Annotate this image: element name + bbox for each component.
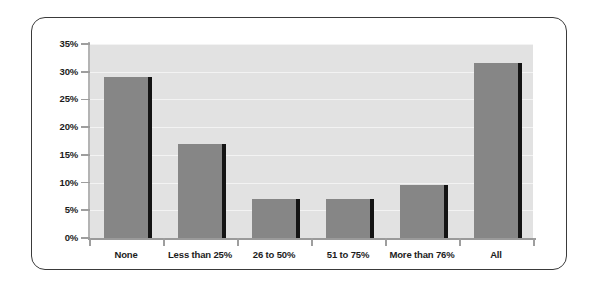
- gridline: [89, 99, 533, 100]
- gridline: [89, 44, 533, 45]
- gridline: [89, 72, 533, 73]
- bar: [104, 77, 148, 238]
- bar: [178, 144, 222, 238]
- y-axis-tick: [81, 182, 90, 184]
- y-axis-tick-label: 15%: [40, 150, 78, 160]
- x-axis-category-label: All: [451, 249, 541, 260]
- y-axis-tick-label: 10%: [40, 178, 78, 188]
- gridline: [89, 155, 533, 156]
- bar: [252, 199, 296, 238]
- bar: [474, 63, 518, 238]
- gridline: [89, 183, 533, 184]
- y-axis-tick-label: 20%: [40, 122, 78, 132]
- x-axis-tick: [163, 238, 165, 246]
- x-axis-tick: [89, 238, 91, 246]
- plot-area: [89, 44, 533, 238]
- chart-container: 0%5%10%15%20%25%30%35% NoneLess than 25%…: [0, 0, 598, 289]
- bar: [326, 199, 370, 238]
- y-axis-tick-label: 30%: [40, 67, 78, 77]
- gridline: [89, 210, 533, 211]
- bar-shadow-edge: [296, 199, 300, 238]
- bar: [400, 185, 444, 238]
- bar-shadow-edge: [370, 199, 374, 238]
- y-axis-tick: [81, 99, 90, 101]
- bar-shadow-edge: [222, 144, 226, 238]
- bar-shadow-edge: [518, 63, 522, 238]
- y-axis-tick-label: 5%: [40, 205, 78, 215]
- gridline: [89, 127, 533, 128]
- y-axis-tick-label: 35%: [40, 39, 78, 49]
- x-axis-tick: [237, 238, 239, 246]
- x-axis-tick: [311, 238, 313, 246]
- y-axis-tick: [81, 71, 90, 73]
- y-axis-tick: [81, 43, 90, 45]
- y-axis-tick-label: 0%: [40, 233, 78, 243]
- x-axis-tick: [533, 238, 535, 246]
- y-axis-tick-label: 25%: [40, 94, 78, 104]
- y-axis-tick: [81, 154, 90, 156]
- y-axis-tick: [81, 126, 90, 128]
- x-axis-tick: [385, 238, 387, 246]
- y-axis-tick: [81, 209, 90, 211]
- x-axis-tick: [459, 238, 461, 246]
- bar-shadow-edge: [444, 185, 448, 238]
- bar-shadow-edge: [148, 77, 152, 238]
